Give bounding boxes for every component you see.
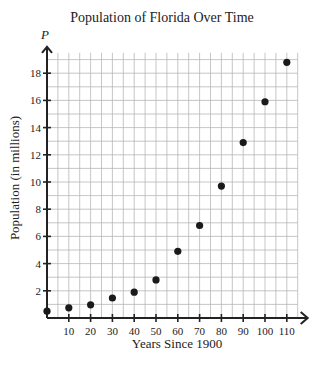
svg-text:12: 12 <box>30 149 41 161</box>
scatter-plot: 10203040506070809010011024681012141618 <box>0 0 324 366</box>
svg-text:110: 110 <box>279 325 296 337</box>
svg-text:10: 10 <box>30 176 42 188</box>
svg-text:8: 8 <box>36 203 42 215</box>
svg-text:14: 14 <box>30 122 42 134</box>
svg-text:100: 100 <box>257 325 274 337</box>
svg-text:70: 70 <box>194 325 206 337</box>
svg-text:18: 18 <box>30 67 42 79</box>
svg-text:6: 6 <box>36 230 42 242</box>
svg-text:10: 10 <box>63 325 75 337</box>
svg-text:30: 30 <box>107 325 119 337</box>
svg-text:2: 2 <box>36 285 42 297</box>
svg-text:20: 20 <box>85 325 97 337</box>
axes <box>42 47 308 324</box>
svg-text:16: 16 <box>30 94 42 106</box>
svg-text:80: 80 <box>216 325 228 337</box>
svg-text:60: 60 <box>172 325 184 337</box>
grid-lines <box>47 53 298 318</box>
svg-text:50: 50 <box>151 325 163 337</box>
svg-text:4: 4 <box>36 258 42 270</box>
tick-labels: 10203040506070809010011024681012141618 <box>30 67 295 337</box>
svg-text:40: 40 <box>129 325 141 337</box>
svg-text:90: 90 <box>238 325 250 337</box>
